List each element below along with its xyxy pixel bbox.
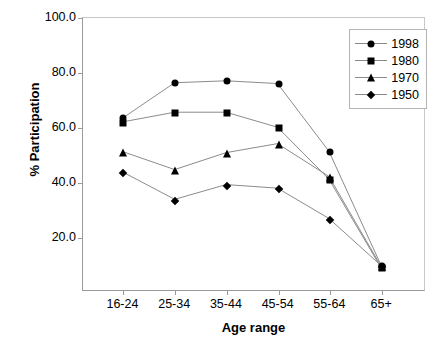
data-point-1970-45-54: [275, 140, 283, 148]
data-point-1980-16-24: [120, 119, 127, 126]
legend-item-1998[interactable]: 1998: [355, 35, 419, 52]
x-axis-tick: [330, 290, 331, 295]
legend-marker-square-icon: [355, 54, 387, 68]
series-line-1980: [123, 112, 380, 266]
data-point-1970-16-24: [119, 148, 127, 156]
y-tick-label: 60.0: [32, 121, 76, 133]
series-line-1950: [123, 172, 380, 265]
legend-label: 1950: [387, 88, 419, 102]
y-tick-label: 20.0: [32, 231, 76, 243]
legend-square-icon: [368, 57, 375, 64]
y-axis-tick: [78, 238, 83, 239]
x-axis-tick: [227, 290, 228, 295]
x-axis-tick: [123, 290, 124, 295]
legend-item-1950[interactable]: 1950: [355, 86, 419, 103]
legend-diamond-icon: [367, 90, 375, 98]
legend-marker-triangle-icon: [355, 71, 387, 85]
legend-item-1980[interactable]: 1980: [355, 52, 419, 69]
series-line-1998: [123, 81, 380, 264]
data-point-1970-35-44: [223, 149, 231, 157]
series-line-1970: [123, 144, 380, 266]
legend-circle-icon: [368, 40, 375, 47]
data-point-1980-45-54: [275, 125, 282, 132]
legend-item-1970[interactable]: 1970: [355, 69, 419, 86]
x-axis-title: Age range: [82, 320, 425, 335]
legend-marker-circle-icon: [355, 37, 387, 51]
chart-figure: % Participation 100.080.060.040.020.0 16…: [0, 0, 435, 356]
data-point-1970-55-64: [326, 173, 334, 181]
data-point-1998-25-34: [172, 80, 179, 87]
data-point-1980-35-44: [223, 109, 230, 116]
legend-label: 1980: [387, 54, 419, 68]
y-tick-label: 80.0: [32, 66, 76, 78]
data-point-1998-35-44: [223, 78, 230, 85]
y-axis-tick: [78, 18, 83, 19]
legend-label: 1998: [387, 37, 419, 51]
data-point-1980-25-34: [172, 109, 179, 116]
data-point-1998-55-64: [327, 149, 334, 156]
y-tick-label: 40.0: [32, 176, 76, 188]
legend-label: 1970: [387, 71, 419, 85]
caption-strip: [0, 346, 435, 356]
x-tick-label: 65+: [346, 297, 416, 311]
x-axis-tick: [175, 290, 176, 295]
legend-marker-diamond-icon: [355, 88, 387, 102]
data-point-1998-45-54: [275, 81, 282, 88]
y-axis-tick-labels: 100.080.060.040.020.0: [26, 0, 76, 356]
y-axis-tick: [78, 183, 83, 184]
x-axis-tick: [382, 290, 383, 295]
y-tick-label: 100.0: [32, 11, 76, 23]
data-point-1970-25-34: [171, 166, 179, 174]
legend-triangle-icon: [367, 73, 375, 81]
y-axis-tick: [78, 73, 83, 74]
legend: 1998198019701950: [349, 29, 427, 109]
x-axis-tick: [279, 290, 280, 295]
y-axis-tick: [78, 128, 83, 129]
